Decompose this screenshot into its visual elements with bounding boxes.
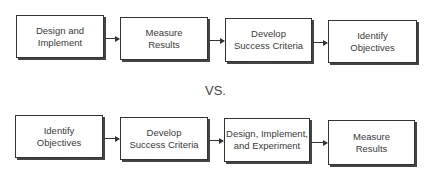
arrow-icon bbox=[312, 142, 327, 143]
bottom-step-identify-objectives: Identify Objectives bbox=[15, 115, 103, 158]
bottom-step-design-implement-experiment: Design, Implement, and Experiment bbox=[224, 118, 310, 162]
step-label: Measure Results bbox=[353, 131, 390, 155]
arrow-icon bbox=[210, 140, 223, 141]
step-label: Identify Objectives bbox=[350, 30, 394, 54]
arrow-icon bbox=[210, 40, 224, 41]
arrow-icon bbox=[314, 42, 327, 43]
bottom-step-develop-criteria: Develop Success Criteria bbox=[120, 117, 208, 160]
arrow-icon bbox=[105, 138, 119, 139]
top-step-develop-criteria: Develop Success Criteria bbox=[225, 18, 312, 62]
top-step-design-implement: Design and Implement bbox=[16, 15, 104, 58]
step-label: Develop Success Criteria bbox=[129, 127, 198, 151]
step-label: Identify Objectives bbox=[37, 125, 81, 149]
step-label: Design, Implement, and Experiment bbox=[226, 128, 308, 152]
step-label: Develop Success Criteria bbox=[234, 28, 303, 52]
step-label: Measure Results bbox=[146, 27, 183, 51]
vs-label: VS. bbox=[205, 83, 226, 98]
arrow-icon bbox=[106, 38, 119, 39]
bottom-step-measure-results: Measure Results bbox=[328, 120, 415, 165]
step-label: Design and Implement bbox=[36, 25, 84, 49]
top-step-identify-objectives: Identify Objectives bbox=[328, 20, 417, 63]
top-step-measure-results: Measure Results bbox=[120, 17, 208, 60]
